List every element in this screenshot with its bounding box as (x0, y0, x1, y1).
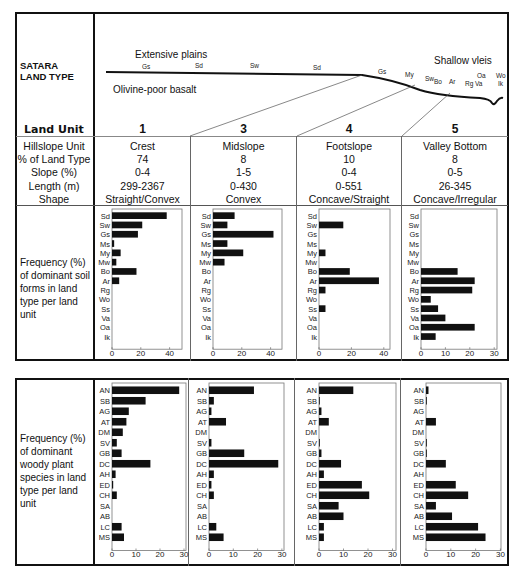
category-label: Ik (104, 333, 110, 342)
tick-label: 30 (388, 550, 397, 559)
bar (319, 407, 321, 415)
category-label: Mw (305, 258, 317, 267)
bar (112, 268, 136, 275)
tick-label: 40 (165, 349, 174, 358)
category-label: Ik (205, 333, 211, 342)
category-label: CH (196, 491, 207, 500)
category-label: AH (197, 470, 207, 479)
tick-label: 10 (132, 550, 141, 559)
category-label: SA (307, 502, 317, 511)
bar (319, 481, 362, 489)
bar (213, 250, 243, 257)
bar (319, 502, 339, 510)
bar (112, 407, 129, 415)
category-label: Va (202, 314, 211, 323)
category-label: GB (413, 449, 424, 458)
category-label: Ms (100, 240, 110, 249)
bar (209, 386, 254, 394)
bar (319, 460, 341, 468)
category-label: Sd (101, 212, 110, 221)
category-label: Gs (100, 230, 110, 239)
category-label: GB (196, 449, 207, 458)
category-label: Wo (99, 295, 110, 304)
category-label: Gs (201, 230, 211, 239)
bar (319, 250, 325, 257)
category-label: CH (306, 491, 317, 500)
category-label: AH (414, 470, 424, 479)
bar (213, 240, 227, 247)
category-label: Wo (408, 295, 419, 304)
category-label: MS (413, 533, 424, 542)
category-label: Oa (307, 323, 318, 332)
category-label: MS (196, 533, 207, 542)
bar (421, 305, 438, 312)
category-label: DM (195, 428, 207, 437)
category-label: Va (308, 314, 317, 323)
category-label: SV (307, 439, 317, 448)
category-label: Ms (409, 240, 419, 249)
bar (421, 296, 431, 303)
category-label: LC (100, 523, 110, 532)
category-label: GB (99, 449, 110, 458)
tick-label: 20 (471, 550, 480, 559)
bar-charts: SdSwGsMsMyMwBoArRgWoSsVaOaIk02040SdSwGsM… (0, 0, 516, 572)
tick-label: 30 (277, 550, 286, 559)
bar (112, 386, 179, 394)
category-label: AN (197, 386, 207, 395)
category-label: Mw (98, 258, 110, 267)
tick-label: 20 (136, 349, 145, 358)
category-label: Mw (199, 258, 211, 267)
tick-label: 10 (446, 550, 455, 559)
bar (319, 277, 379, 284)
chart-frame (213, 209, 282, 349)
bar (426, 523, 478, 531)
category-label: AB (307, 512, 317, 521)
bar (319, 470, 324, 478)
category-label: DM (98, 428, 110, 437)
bar (112, 481, 113, 489)
bar (426, 512, 452, 520)
bar (213, 222, 227, 229)
tick-label: 0 (211, 349, 216, 358)
category-label: AB (197, 512, 207, 521)
bar (319, 386, 353, 394)
category-label: SB (414, 397, 424, 406)
category-label: Ar (103, 277, 111, 286)
category-label: Rg (201, 286, 211, 295)
bar (209, 397, 214, 405)
category-label: Bo (202, 267, 211, 276)
tick-label: 10 (229, 550, 238, 559)
bar (112, 240, 114, 247)
bar (421, 268, 458, 275)
category-label: MS (306, 533, 317, 542)
category-label: Ar (310, 277, 318, 286)
category-label: DC (99, 460, 110, 469)
bar (421, 277, 475, 284)
category-label: My (307, 249, 317, 258)
category-label: CH (99, 491, 110, 500)
tick-label: 10 (339, 550, 348, 559)
category-label: Ar (204, 277, 212, 286)
category-label: CH (413, 491, 424, 500)
bar (209, 491, 214, 499)
tick-label: 0 (317, 550, 322, 559)
category-label: SA (100, 502, 110, 511)
category-label: SB (100, 397, 110, 406)
category-label: AH (307, 470, 317, 479)
category-label: Ms (201, 240, 211, 249)
bar (112, 449, 122, 457)
category-label: Ss (101, 305, 110, 314)
bar (426, 481, 456, 489)
bar (112, 222, 142, 229)
category-label: SB (197, 397, 207, 406)
category-label: Sd (308, 212, 317, 221)
bar (421, 287, 472, 294)
bar (319, 449, 321, 457)
tick-label: 0 (207, 550, 212, 559)
category-label: LC (307, 523, 317, 532)
category-label: MS (99, 533, 110, 542)
category-label: Ss (308, 305, 317, 314)
category-label: GB (306, 449, 317, 458)
bar (112, 460, 150, 468)
tick-label: 20 (364, 550, 373, 559)
